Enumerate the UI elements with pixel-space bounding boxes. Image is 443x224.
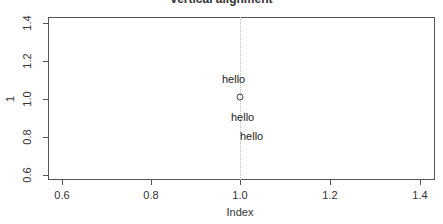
y-tick-label: 0.8 xyxy=(21,129,33,144)
y-axis-label: 1 xyxy=(4,96,16,102)
y-tick-mark xyxy=(43,23,48,24)
x-tick-label: 1.4 xyxy=(412,189,427,201)
x-tick-label: 1.0 xyxy=(232,189,247,201)
x-tick-mark xyxy=(330,180,331,185)
annotation-label: hello xyxy=(231,111,254,123)
x-tick-label: 0.8 xyxy=(143,189,158,201)
y-tick-mark xyxy=(43,61,48,62)
x-tick-mark xyxy=(420,180,421,185)
x-tick-mark xyxy=(240,180,241,185)
y-tick-mark xyxy=(43,137,48,138)
y-tick-mark xyxy=(43,175,48,176)
annotation-label: hello xyxy=(222,73,245,85)
y-tick-mark xyxy=(43,99,48,100)
data-point-circle xyxy=(237,94,244,101)
x-axis-label: Index xyxy=(227,206,254,218)
annotation-label: hello xyxy=(240,130,263,142)
y-tick-label: 1.4 xyxy=(21,15,33,30)
x-tick-label: 1.2 xyxy=(322,189,337,201)
y-tick-label: 0.6 xyxy=(21,167,33,182)
x-tick-label: 0.6 xyxy=(54,189,69,201)
x-tick-mark xyxy=(62,180,63,185)
chart-title: vertical alignment xyxy=(0,0,443,6)
y-tick-label: 1.0 xyxy=(21,91,33,106)
y-tick-label: 1.2 xyxy=(21,53,33,68)
x-tick-mark xyxy=(151,180,152,185)
